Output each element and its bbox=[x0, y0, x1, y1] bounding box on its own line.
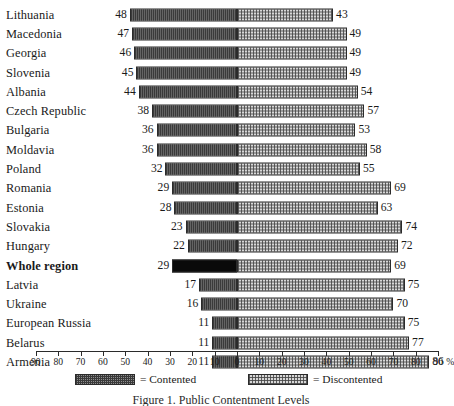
value-label-contented: 44 bbox=[124, 86, 136, 98]
bar-contented bbox=[188, 240, 237, 253]
value-label-discontented: 70 bbox=[396, 298, 408, 310]
bar-discontented bbox=[237, 66, 347, 79]
bar-contented bbox=[134, 47, 237, 60]
legend-item-discontented: = Discontented bbox=[248, 374, 382, 385]
bar-discontented bbox=[237, 27, 347, 40]
category-label: Poland bbox=[6, 163, 41, 175]
bar-contented bbox=[157, 143, 237, 156]
category-label: Lithuania bbox=[6, 8, 54, 20]
value-label-contented: 11 bbox=[198, 337, 209, 349]
value-label-contented: 29 bbox=[158, 183, 170, 195]
value-label-discontented: 57 bbox=[367, 105, 379, 117]
value-label-discontented: 75 bbox=[408, 279, 420, 291]
bar-contented bbox=[136, 66, 237, 79]
axis-tick-label: 70 bbox=[76, 357, 86, 367]
chart-row: European Russia1175 bbox=[0, 314, 442, 333]
axis-tick-label: 0 bbox=[235, 357, 240, 367]
bar-discontented bbox=[237, 163, 360, 176]
bar-discontented bbox=[237, 259, 391, 272]
value-label-discontented: 77 bbox=[412, 337, 424, 349]
bar-discontented bbox=[237, 47, 347, 60]
bar-contented bbox=[174, 201, 237, 214]
value-label-discontented: 74 bbox=[405, 221, 417, 233]
chart-row: Czech Republic3857 bbox=[0, 102, 442, 121]
legend-label-contented: = Contented bbox=[140, 374, 196, 385]
value-label-discontented: 54 bbox=[361, 86, 373, 98]
axis-tick-label: 60 bbox=[98, 357, 108, 367]
category-label: Ukraine bbox=[6, 298, 47, 310]
value-label-contented: 47 bbox=[117, 28, 129, 40]
axis-tick-label: 30 bbox=[299, 357, 309, 367]
bar-discontented bbox=[237, 8, 333, 21]
category-label: Macedonia bbox=[6, 28, 62, 40]
category-label: Romania bbox=[6, 182, 51, 194]
chart-row: Poland3255 bbox=[0, 159, 442, 178]
category-label: Whole region bbox=[6, 259, 78, 271]
value-label-discontented: 49 bbox=[350, 28, 362, 40]
axis-unit-label: % bbox=[446, 357, 454, 367]
axis-tick-label: 30 bbox=[165, 357, 175, 367]
chart-row: Belarus1177 bbox=[0, 333, 442, 352]
bar-discontented bbox=[237, 336, 409, 349]
chart-row: Hungary2272 bbox=[0, 237, 442, 256]
category-label: Estonia bbox=[6, 201, 44, 213]
value-label-contented: 11 bbox=[198, 318, 209, 330]
value-label-discontented: 55 bbox=[363, 163, 375, 175]
chart-row: Whole region2969 bbox=[0, 256, 442, 275]
value-label-discontented: 69 bbox=[394, 260, 406, 272]
bar-discontented bbox=[237, 182, 391, 195]
chart-row: Lithuania4843 bbox=[0, 5, 442, 24]
bar-discontented bbox=[237, 240, 398, 253]
axis-tick-label: 90 bbox=[31, 357, 41, 367]
axis-tick-label: 40 bbox=[322, 357, 332, 367]
chart-row: Latvia1775 bbox=[0, 275, 442, 294]
bar-contented bbox=[212, 317, 237, 330]
axis-tick-label: 20 bbox=[188, 357, 198, 367]
value-label-discontented: 53 bbox=[358, 125, 370, 137]
axis-tick-label: 10 bbox=[210, 357, 220, 367]
value-label-contented: 36 bbox=[142, 125, 154, 137]
value-label-contented: 46 bbox=[120, 47, 132, 59]
bar-contented bbox=[172, 259, 237, 272]
value-label-contented: 23 bbox=[171, 221, 183, 233]
value-label-contented: 48 bbox=[115, 9, 127, 21]
value-label-discontented: 75 bbox=[408, 318, 420, 330]
value-label-contented: 22 bbox=[173, 240, 185, 252]
bar-discontented bbox=[237, 201, 378, 214]
bar-contented bbox=[212, 336, 237, 349]
category-label: Bulgaria bbox=[6, 124, 49, 136]
axis-tick-label: 60 bbox=[366, 357, 376, 367]
axis-tick-label: 10 bbox=[255, 357, 265, 367]
bar-contented bbox=[132, 27, 237, 40]
axis-tick-label: 50 bbox=[344, 357, 354, 367]
legend-swatch-contented bbox=[75, 374, 135, 385]
bar-contented bbox=[172, 182, 237, 195]
value-label-discontented: 49 bbox=[350, 67, 362, 79]
axis-tick-label: 80 bbox=[53, 357, 63, 367]
axis-tick-label: 20 bbox=[277, 357, 287, 367]
category-label: Slovenia bbox=[6, 66, 50, 78]
bar-discontented bbox=[237, 143, 367, 156]
axis-tick-label: 90 bbox=[433, 357, 443, 367]
bar-discontented bbox=[237, 85, 358, 98]
chart-row: Romania2969 bbox=[0, 179, 442, 198]
axis-tick-label: 80 bbox=[411, 357, 421, 367]
bar-contented bbox=[130, 8, 237, 21]
axis-tick-label: 50 bbox=[120, 357, 130, 367]
value-label-contented: 17 bbox=[184, 279, 196, 291]
bar-contented bbox=[186, 220, 237, 233]
bar-contented bbox=[139, 85, 237, 98]
value-label-discontented: 43 bbox=[336, 9, 348, 21]
bar-discontented bbox=[237, 105, 364, 118]
chart-row: Slovakia2374 bbox=[0, 217, 442, 236]
value-label-discontented: 69 bbox=[394, 183, 406, 195]
category-label: Czech Republic bbox=[6, 105, 86, 117]
chart-row: Moldavia3658 bbox=[0, 140, 442, 159]
value-label-discontented: 63 bbox=[381, 202, 393, 214]
bar-contented bbox=[152, 105, 237, 118]
value-label-contented: 32 bbox=[151, 163, 163, 175]
category-label: Albania bbox=[6, 86, 46, 98]
chart-row: Slovenia4549 bbox=[0, 63, 442, 82]
chart-row: Ukraine1670 bbox=[0, 295, 442, 314]
